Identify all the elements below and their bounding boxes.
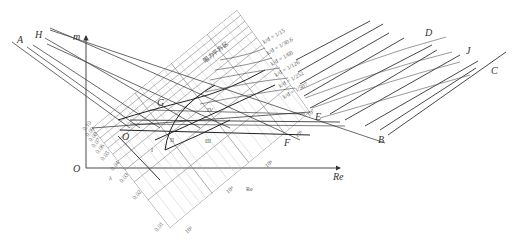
roughness-labels: k/d = 1/15 k/d = 1/30.6 k/d = 1/60 k/d =… xyxy=(262,27,309,100)
lambda-label: λ xyxy=(109,175,112,181)
svg-text:0.04: 0.04 xyxy=(109,160,120,172)
svg-text:10⁵: 10⁵ xyxy=(264,159,274,169)
re-tick-labels: 10³ 10⁴ 10⁵ 10⁶ 10⁷ xyxy=(184,108,316,235)
label-G: G xyxy=(157,97,164,108)
re-inner-label: Re xyxy=(246,186,253,192)
label-H: H xyxy=(34,29,43,40)
label-J: J xyxy=(466,45,471,56)
label-A: A xyxy=(16,34,24,45)
label-C: C xyxy=(491,65,498,76)
svg-text:10³: 10³ xyxy=(184,225,194,235)
svg-text:10⁴: 10⁴ xyxy=(225,185,235,195)
diagram-canvas: A H m D J C G E B F O O Re λ Re I II III… xyxy=(0,0,514,242)
svg-text:10⁶: 10⁶ xyxy=(294,129,304,139)
region-IV: IV xyxy=(207,107,214,113)
label-D: D xyxy=(424,27,433,38)
region-II: II xyxy=(170,137,174,143)
origin-label: O xyxy=(73,163,80,174)
region-III: III xyxy=(205,138,211,144)
axis-label-m: m xyxy=(73,31,80,42)
label-F: F xyxy=(283,137,291,148)
label-B: B xyxy=(378,134,384,145)
region-I: I xyxy=(151,147,153,153)
inner-origin-label: O xyxy=(122,131,129,142)
svg-text:0.01: 0.01 xyxy=(153,221,164,233)
right-line-family xyxy=(296,21,506,135)
axis-label-re: Re xyxy=(332,171,344,182)
